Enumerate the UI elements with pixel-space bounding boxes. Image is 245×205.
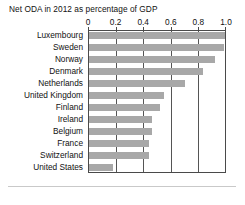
bar xyxy=(89,116,152,123)
bar xyxy=(89,152,149,159)
bar xyxy=(89,104,160,111)
bar xyxy=(89,128,152,135)
bar xyxy=(89,140,149,147)
chart-screenshot: Net ODA in 2012 as percentage of GDP 00.… xyxy=(0,0,245,205)
bar xyxy=(89,80,185,87)
bar xyxy=(89,164,113,171)
bottom-divider xyxy=(8,186,236,187)
bar xyxy=(89,68,203,75)
bar xyxy=(89,56,215,63)
bar xyxy=(89,32,225,39)
bar xyxy=(89,44,224,51)
bar-series xyxy=(0,0,245,205)
bar xyxy=(89,92,164,99)
